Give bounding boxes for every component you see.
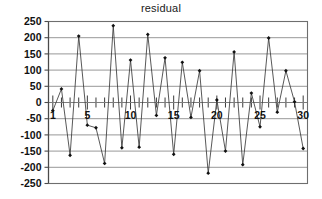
data-point-9 [120,146,124,150]
data-point-11 [137,145,141,149]
y-axis-label--150: -150 [20,145,41,157]
data-point-29 [293,100,297,104]
data-point-30 [301,147,305,151]
data-point-20 [215,98,219,102]
y-axis-label-50: 50 [30,80,42,92]
data-point-27 [275,110,279,114]
x-axis-label-5: 5 [84,109,90,121]
residual-line-chart: 250200150100500-50-100-150-200-250 15101… [0,0,322,199]
data-point-7 [103,162,107,166]
x-axis-label-30: 30 [297,109,309,121]
data-point-12 [146,33,150,37]
y-axis-label-150: 150 [24,48,42,60]
data-point-19 [206,171,210,175]
y-axis-label--100: -100 [20,129,41,141]
data-point-16 [180,60,184,64]
y-axis-label--50: -50 [26,112,41,124]
x-axis-label-1: 1 [50,109,56,121]
y-axis-labels: 250200150100500-50-100-150-200-250 [20,15,41,189]
data-point-2 [60,87,64,91]
data-point-23 [241,163,245,167]
data-point-22 [232,50,236,54]
data-point-markers [51,24,305,175]
x-axis-label-15: 15 [168,109,180,121]
data-point-15 [172,152,176,156]
chart-container: residual 250200150100500-50-100-150-200-… [0,0,322,199]
data-point-5 [85,123,89,127]
data-point-18 [198,69,202,73]
y-axis-label-200: 200 [24,31,42,43]
data-point-24 [249,91,253,95]
data-point-3 [68,153,72,157]
data-point-6 [94,126,98,130]
data-point-13 [155,114,159,118]
data-point-26 [267,36,271,40]
data-point-14 [163,56,167,60]
data-point-8 [111,24,115,28]
y-axis-label-250: 250 [24,15,42,27]
y-axis-label--200: -200 [20,161,41,173]
data-point-28 [284,69,288,73]
y-axis-label-100: 100 [24,64,42,76]
data-point-25 [258,125,262,129]
x-axis-label-10: 10 [125,109,137,121]
y-axis-label--250: -250 [20,177,41,189]
x-axis-label-25: 25 [254,109,266,121]
y-axis-label-0: 0 [36,96,42,108]
x-axis-label-20: 20 [211,109,223,121]
data-point-10 [129,58,133,62]
data-point-21 [224,149,228,153]
